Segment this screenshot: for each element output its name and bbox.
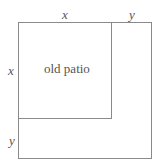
top-x-label: x — [62, 8, 68, 21]
old-patio-label: old patio — [44, 62, 90, 75]
top-y-label: y — [129, 8, 135, 21]
left-y-label: y — [9, 134, 15, 147]
left-x-label: x — [8, 64, 14, 77]
